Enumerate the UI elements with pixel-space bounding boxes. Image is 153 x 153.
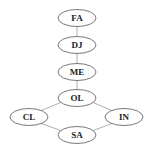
node-label: FA: [71, 13, 83, 23]
node-ol: OL: [58, 90, 96, 107]
node-sa: SA: [58, 127, 96, 144]
node-label: IN: [119, 112, 130, 122]
node-dj: DJ: [58, 37, 96, 54]
edge-ol-cl: [40, 102, 62, 111]
node-label: DJ: [72, 40, 83, 50]
node-in: IN: [105, 109, 143, 126]
node-label: SA: [71, 130, 83, 140]
graph-diagram: FA DJ ME OL CL IN SA: [0, 0, 153, 153]
node-fa: FA: [58, 10, 96, 27]
node-me: ME: [58, 64, 96, 81]
node-label: ME: [70, 67, 85, 77]
node-cl: CL: [10, 109, 48, 126]
node-label: CL: [23, 112, 36, 122]
edge-in-sa: [92, 123, 113, 131]
edge-cl-sa: [40, 123, 62, 131]
node-label: OL: [70, 93, 83, 103]
edge-ol-in: [92, 102, 113, 111]
